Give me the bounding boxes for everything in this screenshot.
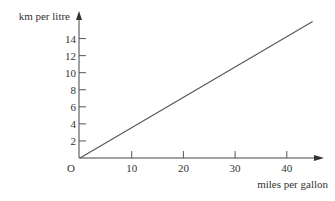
y-tick-label: 6 xyxy=(71,101,77,113)
y-tick-label: 14 xyxy=(65,33,77,45)
x-axis-arrow-icon xyxy=(314,155,324,161)
y-axis-label: km per litre xyxy=(19,10,70,22)
origin-label: O xyxy=(67,162,75,174)
series-layer xyxy=(80,22,313,158)
y-tick-label: 12 xyxy=(65,50,76,62)
series-line-conversion xyxy=(80,22,313,158)
x-tick-label: 30 xyxy=(230,162,242,174)
x-tick-label: 20 xyxy=(178,162,190,174)
y-tick-label: 4 xyxy=(71,118,77,130)
x-axis: 10203040 miles per gallon xyxy=(79,151,328,190)
y-tick-label: 2 xyxy=(71,135,77,147)
y-axis-arrow-icon xyxy=(76,11,82,20)
chart: 2468101214 km per litre 10203040 miles p… xyxy=(0,0,335,201)
y-tick-label: 8 xyxy=(71,84,77,96)
x-tick-label: 10 xyxy=(126,162,138,174)
x-ticks: 10203040 xyxy=(126,151,293,174)
y-axis: 2468101214 km per litre xyxy=(19,10,86,158)
x-tick-label: 40 xyxy=(281,162,293,174)
y-ticks: 2468101214 xyxy=(65,33,86,147)
y-tick-label: 10 xyxy=(65,67,77,79)
x-axis-label: miles per gallon xyxy=(257,178,328,190)
